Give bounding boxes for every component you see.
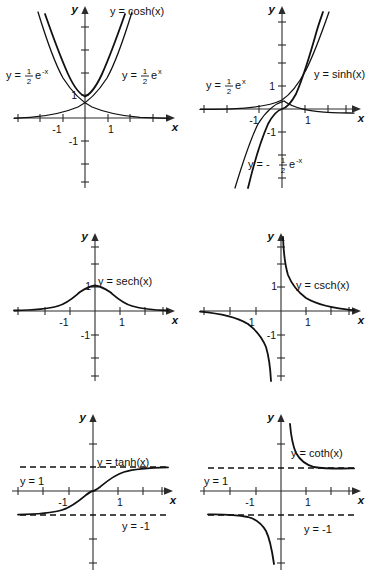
hyperbolic-functions-figure: -1 1 1 -1 y x y = cosh(x) y = 1 2 e -x y… — [0, 0, 372, 573]
sinh-panel: -1 1 1 -1 y x y = sinh(x) y = 1 2 e x y … — [186, 0, 372, 191]
x-axis-label: x — [357, 314, 365, 326]
fraction-denominator: 2 — [143, 77, 148, 86]
csch-annotation: y = csch(x) — [296, 279, 349, 291]
ytick-label-pos1: 1 — [85, 280, 91, 292]
tanh-plot: -1 1 y x y = tanh(x) y = 1 y = -1 — [0, 382, 186, 573]
half-exp-x-lead: y = — [206, 79, 221, 91]
asymptote-label-y-eq-neg1: y = -1 — [304, 523, 332, 535]
exponent-x: x — [242, 77, 246, 86]
xtick-label-pos1: 1 — [119, 316, 125, 328]
half-exp-x-curve — [14, 12, 132, 118]
fraction-numerator: 1 — [27, 67, 32, 76]
half-exp-neg-x-annotation: y = 1 2 e -x — [6, 67, 48, 86]
fraction-numerator: 1 — [143, 67, 148, 76]
cosh-annotation: y = cosh(x) — [110, 5, 164, 17]
csch-right-branch — [283, 237, 354, 310]
ytick-label-neg1: -1 — [81, 329, 90, 341]
sinh-plot: -1 1 1 -1 y x y = sinh(x) y = 1 2 e x y … — [186, 0, 372, 191]
fraction-denominator: 2 — [27, 77, 32, 86]
tanh-panel: -1 1 y x y = tanh(x) y = 1 y = -1 — [0, 382, 186, 573]
cosh-panel: -1 1 1 -1 y x y = cosh(x) y = 1 2 e -x y… — [0, 0, 186, 191]
exponent-neg-x: -x — [42, 67, 48, 76]
y-axis-arrowhead — [91, 233, 98, 241]
xtick-label-pos1: 1 — [305, 316, 311, 328]
exponent-x: x — [158, 67, 162, 76]
ytick-label-neg1: -1 — [267, 126, 276, 138]
xtick-label-pos1: 1 — [305, 496, 311, 508]
neg-half-exp-lead: y = - — [248, 158, 270, 170]
x-axis-label: x — [171, 121, 179, 133]
e-base: e — [151, 69, 157, 81]
coth-annotation: y = coth(x) — [291, 447, 343, 459]
neg-half-exp-neg-x-annotation: y = - 1 2 e -x — [248, 156, 302, 175]
ytick-label-neg1: -1 — [267, 329, 276, 341]
y-axis-arrowhead — [89, 414, 96, 422]
e-base: e — [35, 69, 41, 81]
x-axis-label: x — [171, 314, 179, 326]
exponent-neg-x: -x — [296, 156, 302, 165]
y-axis-label: y — [71, 3, 79, 15]
half-exp-x-lead: y = — [122, 69, 137, 81]
xtick-label-pos1: 1 — [108, 123, 114, 135]
y-axis-arrowhead — [81, 6, 88, 14]
cosh-plot: -1 1 1 -1 y x y = cosh(x) y = 1 2 e -x y… — [0, 0, 186, 191]
fraction-denominator: 2 — [227, 87, 232, 96]
e-base: e — [289, 158, 295, 170]
y-axis-label: y — [267, 230, 275, 242]
coth-panel: -1 1 y x y = coth(x) y = 1 y = -1 — [186, 382, 372, 573]
coth-plot: -1 1 y x y = coth(x) y = 1 y = -1 — [186, 382, 372, 573]
x-axis-label: x — [357, 494, 365, 506]
xtick-label-neg1: -1 — [245, 496, 254, 508]
y-axis-label: y — [267, 411, 275, 423]
xtick-label-pos1: 1 — [117, 496, 123, 508]
y-axis-label: y — [268, 3, 276, 15]
asymptote-label-y-eq-neg1: y = -1 — [122, 520, 150, 532]
fraction-numerator: 1 — [281, 156, 286, 165]
csch-left-branch — [200, 312, 271, 381]
half-exp-x-annotation: y = 1 2 e x — [206, 77, 246, 96]
y-axis-label: y — [81, 230, 89, 242]
x-axis-label: x — [169, 494, 177, 506]
fraction-denominator: 2 — [281, 166, 286, 175]
sech-panel: -1 1 1 -1 y x y = sech(x) — [0, 191, 186, 382]
xtick-label-pos1: 1 — [305, 114, 311, 126]
y-axis-label: y — [79, 411, 87, 423]
ytick-label-pos1: 1 — [271, 280, 277, 292]
coth-left-branch — [208, 514, 274, 564]
sinh-annotation: y = sinh(x) — [314, 68, 365, 80]
e-base: e — [235, 79, 241, 91]
xtick-label-neg1: -1 — [249, 114, 258, 126]
fraction-numerator: 1 — [227, 77, 232, 86]
half-exp-neg-x-lead: y = — [6, 69, 21, 81]
xtick-label-neg1: -1 — [245, 316, 254, 328]
half-exp-x-annotation: y = 1 2 e x — [122, 67, 162, 86]
y-axis-arrowhead — [278, 6, 285, 14]
sech-plot: -1 1 1 -1 y x y = sech(x) — [0, 191, 186, 382]
xtick-label-neg1: -1 — [52, 123, 61, 135]
asymptote-label-y-eq-1: y = 1 — [20, 475, 44, 487]
xtick-label-neg1: -1 — [59, 316, 68, 328]
sech-curve — [14, 286, 168, 311]
xtick-label-neg1: -1 — [58, 496, 67, 508]
y-axis-arrowhead — [277, 414, 284, 422]
half-exp-neg-x-curve — [38, 12, 168, 118]
half-exp-x-curve — [200, 12, 329, 109]
csch-plot: -1 1 1 -1 y x y = csch(x) — [186, 191, 372, 382]
csch-panel: -1 1 1 -1 y x y = csch(x) — [186, 191, 372, 382]
ytick-label-neg1: -1 — [69, 135, 78, 147]
tanh-annotation: y = tanh(x) — [97, 456, 149, 468]
ytick-label-pos1: 1 — [269, 80, 275, 92]
ytick-label-pos1: 1 — [71, 89, 77, 101]
sech-annotation: y = sech(x) — [98, 275, 152, 287]
x-axis-label: x — [357, 112, 365, 124]
asymptote-label-y-eq-1: y = 1 — [204, 475, 228, 487]
